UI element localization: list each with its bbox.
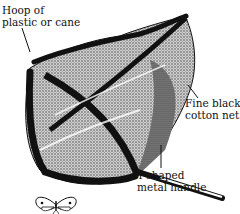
hoop-leader: [22, 28, 30, 52]
net-label: Fine black cotton net: [185, 97, 240, 121]
handle-label: Y-shaped metal handle: [137, 169, 206, 193]
hoop-label-line1: Hoop of: [2, 4, 80, 16]
net-label-line2: cotton net: [185, 109, 240, 121]
handle-label-line1: Y-shaped: [137, 169, 206, 181]
hoop-label: Hoop of plastic or cane: [2, 4, 80, 28]
handle-label-line2: metal handle: [137, 181, 206, 193]
hoop-label-line2: plastic or cane: [2, 16, 80, 28]
butterfly-icon: [36, 197, 76, 214]
net-label-line1: Fine black: [185, 97, 240, 109]
